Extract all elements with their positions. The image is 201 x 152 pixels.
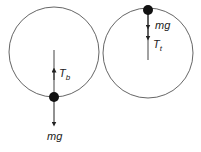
circular-motion-diagram: Tb mg mg Tt — [0, 0, 201, 152]
bottom-position-diagram: Tb mg — [9, 7, 99, 142]
tension-bottom-label: Tb — [59, 67, 71, 82]
weight-label: mg — [155, 19, 171, 31]
top-position-diagram: mg Tt — [103, 5, 193, 98]
tension-top-label: Tt — [153, 38, 163, 53]
ball — [49, 92, 59, 102]
weight-label: mg — [47, 130, 63, 142]
ball — [143, 5, 153, 15]
